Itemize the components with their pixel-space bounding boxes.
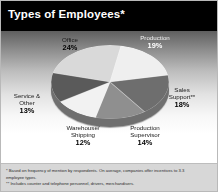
slice-label-production-supervisor-value: 14% xyxy=(117,139,173,147)
slice-label-service-other-name: Service & xyxy=(14,92,40,99)
slice-label-office: Office 24% xyxy=(47,37,93,52)
footnote-line-3: ** Includes counter and telephone person… xyxy=(6,181,212,187)
slice-label-service-other: Service & Other 13% xyxy=(5,93,49,115)
pie-canvas xyxy=(51,45,169,119)
pie-top-face xyxy=(51,45,169,119)
slice-label-production-value: 19% xyxy=(129,42,181,50)
footnote-line-1: * Based on frequency of mention by respo… xyxy=(6,168,212,174)
slice-label-office-name: Office xyxy=(62,36,78,43)
slice-label-production-supervisor-name: Production xyxy=(130,124,160,131)
slice-label-production-name: Production xyxy=(140,34,170,41)
slice-label-sales-support-name: Sales xyxy=(174,86,189,93)
slice-label-sales-support-name2: Support** xyxy=(169,93,196,100)
chart-card: Types of Employees* Office 24% Productio… xyxy=(0,0,218,192)
footnote-line-2: employee types. xyxy=(6,175,212,181)
slice-label-sales-support: Sales Support** 18% xyxy=(153,87,211,109)
slice-label-production: Production 19% xyxy=(129,35,181,50)
page-title: Types of Employees* xyxy=(8,8,125,20)
slice-label-production-supervisor: Production Supervisor 14% xyxy=(117,125,173,147)
slice-label-service-other-value: 13% xyxy=(5,107,49,115)
slice-label-warehouse-shipping-name2: Shipping xyxy=(71,131,95,138)
chart-plot-area: Office 24% Production 19% Sales Support*… xyxy=(1,31,217,163)
slice-label-warehouse-shipping: Warehouse/ Shipping 12% xyxy=(57,125,109,147)
slice-label-warehouse-shipping-name: Warehouse/ xyxy=(66,124,99,131)
chart-title-bar: Types of Employees* xyxy=(1,1,217,31)
slice-label-production-supervisor-name2: Supervisor xyxy=(130,131,160,138)
slice-label-office-value: 24% xyxy=(47,44,93,52)
footnotes: * Based on frequency of mention by respo… xyxy=(1,163,217,191)
slice-label-service-other-name2: Other xyxy=(19,99,34,106)
slice-label-sales-support-value: 18% xyxy=(153,101,211,109)
slice-label-warehouse-shipping-value: 12% xyxy=(57,139,109,147)
